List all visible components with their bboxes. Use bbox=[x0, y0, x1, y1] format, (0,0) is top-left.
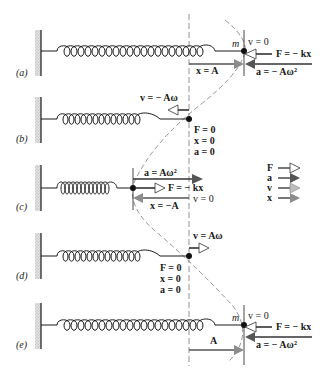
force-label: F = − kx bbox=[168, 182, 203, 193]
velocity-arrow bbox=[199, 243, 209, 253]
spring bbox=[41, 250, 189, 261]
force-label: F = − kx bbox=[276, 321, 311, 332]
spring bbox=[41, 113, 189, 124]
displacement-label: x = 0 bbox=[160, 273, 181, 284]
panel-b: v = − Aω F = 0 x = 0 a = 0 (b) bbox=[16, 92, 215, 157]
panel-c: a = Aω² F = − kx x = −A v = 0 (c) bbox=[16, 165, 214, 213]
spring bbox=[41, 45, 244, 56]
acceleration-arrow bbox=[245, 59, 255, 69]
mass-label: m bbox=[232, 312, 239, 323]
wall bbox=[35, 165, 41, 211]
panel-label: (b) bbox=[16, 133, 28, 145]
displacement-label: x = 0 bbox=[194, 135, 215, 146]
acceleration-label: a = − Aω² bbox=[256, 66, 297, 77]
velocity-label: v = 0 bbox=[248, 36, 269, 47]
acceleration-label: a = Aω² bbox=[144, 167, 177, 178]
wall bbox=[35, 233, 41, 279]
panel-e: m v = 0 F = − kx a = − Aω² A (e) bbox=[16, 303, 312, 365]
displacement-arrow bbox=[234, 59, 244, 69]
spring bbox=[41, 319, 244, 330]
acceleration-arrow bbox=[245, 332, 255, 342]
mass-label: m bbox=[232, 38, 239, 49]
force-arrow bbox=[245, 322, 256, 332]
velocity-label: v = Aω bbox=[193, 230, 223, 241]
panel-label: (c) bbox=[16, 201, 28, 213]
velocity-label: v = − Aω bbox=[140, 92, 178, 103]
displacement-label: x = A bbox=[196, 65, 219, 76]
wall bbox=[35, 303, 41, 349]
acceleration-label: a = 0 bbox=[160, 284, 181, 295]
displacement-label: x = −A bbox=[150, 200, 179, 211]
wall bbox=[35, 97, 41, 143]
wall bbox=[35, 30, 41, 76]
panel-d: v = Aω F = 0 x = 0 a = 0 (d) bbox=[16, 230, 223, 295]
mass bbox=[186, 253, 192, 259]
legend-label-displacement: x bbox=[267, 192, 272, 203]
shm-diagram: m v = 0 F = − kx x = A a = − Aω² (a) v =… bbox=[0, 0, 333, 368]
legend-displacement-icon bbox=[290, 193, 300, 203]
amplitude-label: A bbox=[210, 335, 218, 346]
force-arrow bbox=[155, 183, 165, 193]
force-label: F = 0 bbox=[160, 262, 181, 273]
velocity-label: v = 0 bbox=[193, 193, 214, 204]
velocity-label: v = 0 bbox=[248, 310, 269, 321]
force-label: F = 0 bbox=[194, 124, 215, 135]
displacement-arrow bbox=[133, 193, 143, 203]
velocity-arrow bbox=[168, 105, 178, 115]
legend-force-icon bbox=[290, 163, 300, 173]
spring bbox=[41, 182, 133, 194]
panel-label: (a) bbox=[16, 67, 28, 79]
mass bbox=[186, 116, 192, 122]
acceleration-label: a = − Aω² bbox=[256, 339, 297, 350]
acceleration-label: a = 0 bbox=[194, 146, 215, 157]
legend-acceleration-icon bbox=[290, 173, 300, 183]
legend-velocity-icon bbox=[290, 183, 300, 193]
force-label: F = − kx bbox=[276, 48, 311, 59]
legend: F a v x bbox=[267, 162, 300, 203]
panel-label: (d) bbox=[16, 270, 28, 282]
panel-a: m v = 0 F = − kx x = A a = − Aω² (a) bbox=[16, 30, 312, 79]
panel-label: (e) bbox=[16, 339, 28, 351]
